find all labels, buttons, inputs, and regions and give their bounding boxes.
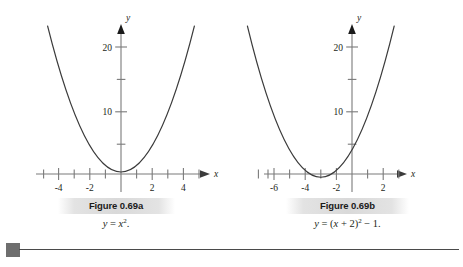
x-tick-label: -4 [301,183,309,193]
x-tick-label: -6 [270,183,278,193]
plot-svg-a: -4 -2 2 4 10 20 x y [0,6,232,198]
x-axis-label-b: x [410,169,416,179]
x-tick-label: 2 [150,183,155,193]
figure-panel-b: -6 -4 -2 2 10 20 x y Figure 0.69b y = (x… [232,0,463,232]
y-tick-label: 20 [103,43,113,53]
x-tick-labels-b: -6 -4 -2 2 [270,183,386,193]
x-tick-label: -2 [86,183,94,193]
plot-area-b: -6 -4 -2 2 10 20 x y [232,6,463,198]
figure-caption-equation-b: y = (x + 2)2 − 1. [232,218,463,230]
eq-sign: = [322,218,328,229]
caption-block-b: Figure 0.69b y = (x + 2)2 − 1. [232,198,463,230]
eq-sign: = [110,218,116,229]
y-axis-a [115,24,127,192]
footer-square-marker [6,243,20,257]
y-axis-label-a: y [125,13,131,23]
y-axis-b [346,24,358,192]
x-axis-label-a: x [213,169,219,179]
y-tick-label: 10 [103,107,113,117]
eq-minus: − [364,218,370,229]
y-tick-labels-b: 10 20 [334,43,344,118]
caption-block-a: Figure 0.69a y = x2. [0,198,232,230]
figure-panel-a: -4 -2 2 4 10 20 x y Figure 0.69a y = x2. [0,0,232,232]
x-tick-label: -2 [332,183,340,193]
eq-period: . [127,218,130,229]
x-tick-label: 4 [181,183,186,193]
figure-page: -4 -2 2 4 10 20 x y Figure 0.69a y = x2. [0,0,463,267]
x-axis-b [258,168,407,180]
figure-caption-title-a: Figure 0.69a [58,198,175,214]
plot-svg-b: -6 -4 -2 2 10 20 x y [232,6,463,198]
curve-b [247,26,394,177]
eq-base: x [334,218,339,229]
x-axis-a [36,168,210,180]
x-tick-label: -4 [55,183,63,193]
eq-plus: + [341,218,347,229]
footer-rule-line [19,249,459,250]
figure-caption-title-b: Figure 0.69b [286,198,409,214]
eq-period: . [378,218,381,229]
y-tick-label: 20 [334,43,344,53]
plot-area-a: -4 -2 2 4 10 20 x y [0,6,232,198]
y-tick-labels-a: 10 20 [103,43,113,118]
eq-exponent: 2 [358,217,362,225]
eq-lhs: y [314,218,319,229]
eq-lhs: y [103,218,108,229]
figure-caption-equation-a: y = x2. [0,218,232,230]
y-tick-label: 10 [334,107,344,117]
x-tick-labels-a: -4 -2 2 4 [55,183,186,193]
y-axis-label-b: y [356,13,362,23]
footer-rule [0,243,463,265]
x-tick-label: 2 [381,183,386,193]
